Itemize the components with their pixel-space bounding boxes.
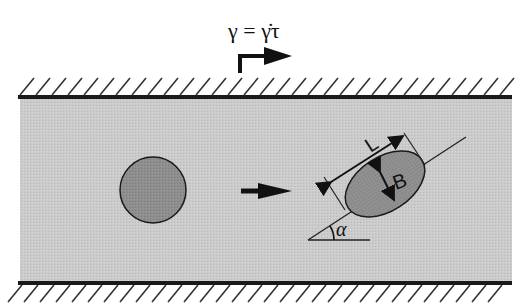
shear-strain-equation: γ = γ̇τ: [228, 18, 280, 44]
bottom-wall: [8, 283, 512, 302]
shear-direction-arrow: [240, 47, 292, 73]
undeformed-droplet: [120, 157, 186, 223]
top-wall-hatching: [20, 78, 514, 95]
angle-label: α: [336, 218, 347, 241]
bottom-wall-hatching: [8, 285, 502, 302]
top-wall: [18, 78, 514, 97]
shear-flow-diagram: [0, 0, 524, 304]
